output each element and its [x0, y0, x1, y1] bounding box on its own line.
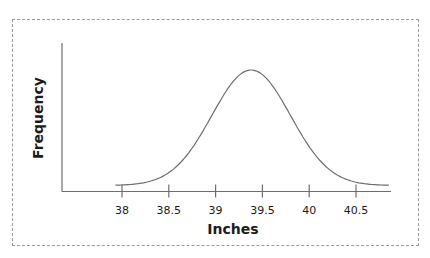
plot-area: 3838.53939.54040.5 [0, 0, 430, 258]
y-axis-label: Frequency [30, 77, 46, 159]
x-tick-label: 39 [209, 204, 223, 217]
x-tick-label: 40 [302, 204, 316, 217]
distribution-curve [115, 70, 388, 185]
x-tick-label: 40.5 [344, 204, 369, 217]
x-tick-label: 38 [115, 204, 129, 217]
x-axis-label: Inches [207, 221, 258, 237]
x-tick-label: 39.5 [250, 204, 275, 217]
x-tick-label: 38.5 [157, 204, 182, 217]
x-ticks: 3838.53939.54040.5 [115, 185, 368, 217]
